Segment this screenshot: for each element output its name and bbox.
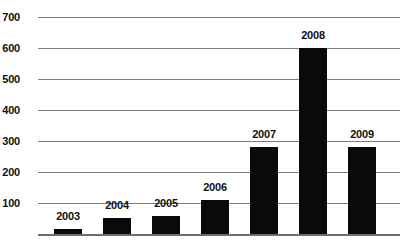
bar-2008: [299, 48, 327, 234]
bar-label-2007: 2007: [246, 129, 282, 140]
bar-2007: [250, 147, 278, 234]
bar-label-2003: 2003: [50, 211, 86, 222]
bar-group-2003: 2003: [50, 10, 86, 234]
bar-group-2007: 2007: [246, 10, 282, 234]
bar-group-2009: 2009: [344, 10, 380, 234]
y-axis-tick-300: 300: [0, 136, 20, 147]
bar-2004: [103, 218, 131, 234]
bar-group-2004: 2004: [99, 10, 135, 234]
x-axis-baseline: [38, 234, 400, 236]
y-axis-tick-400: 400: [0, 105, 20, 116]
bar-label-2004: 2004: [99, 200, 135, 211]
bar-2009: [348, 147, 376, 234]
bar-label-2009: 2009: [344, 129, 380, 140]
bar-group-2006: 2006: [197, 10, 233, 234]
bar-label-2005: 2005: [148, 198, 184, 209]
bar-group-2005: 2005: [148, 10, 184, 234]
y-axis-tick-200: 200: [0, 167, 20, 178]
bar-2005: [152, 216, 180, 234]
bar-label-2006: 2006: [197, 182, 233, 193]
y-axis-tick-100: 100: [0, 198, 20, 209]
bar-2006: [201, 200, 229, 234]
bar-group-2008: 2008: [295, 10, 331, 234]
bar-chart: 700 600 500 400 300 200 100 2003 2004 20…: [0, 0, 412, 248]
y-axis-tick-600: 600: [0, 43, 20, 54]
y-axis-tick-500: 500: [0, 74, 20, 85]
bar-label-2008: 2008: [295, 30, 331, 41]
plot-area: 700 600 500 400 300 200 100 2003 2004 20…: [38, 10, 400, 234]
y-axis-tick-700: 700: [0, 12, 20, 23]
